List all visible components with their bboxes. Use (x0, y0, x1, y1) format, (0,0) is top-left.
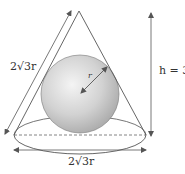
base-diameter-label: 2√3r (68, 156, 94, 167)
height-label: h = 3r (159, 65, 185, 76)
slant-height-label: 2√3r (10, 61, 36, 72)
sphere (41, 55, 119, 133)
cone-base-front (14, 135, 146, 154)
radius-label: r (88, 72, 92, 80)
cone-sphere-diagram (0, 0, 185, 174)
